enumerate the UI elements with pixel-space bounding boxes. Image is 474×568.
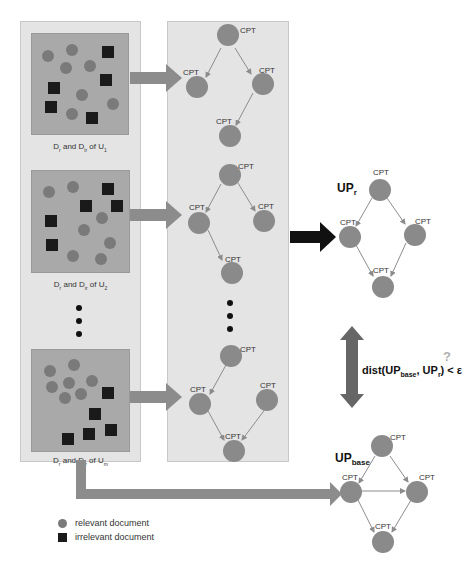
up-r-node bbox=[339, 226, 361, 248]
ellipsis-dot bbox=[227, 313, 233, 319]
graph-node bbox=[253, 210, 275, 232]
cpt-label: CPT bbox=[375, 522, 391, 531]
cpt-label: CPT bbox=[260, 381, 276, 390]
elbow-arrow-to-upbase bbox=[76, 460, 342, 506]
cpt-label: CPT bbox=[342, 473, 358, 482]
up-r-node bbox=[369, 179, 391, 201]
up-r-node bbox=[372, 276, 394, 298]
cpt-label: CPT bbox=[190, 385, 206, 394]
gray-block-arrow-u2 bbox=[130, 201, 182, 229]
graph-node bbox=[220, 345, 242, 367]
legend-relevant: relevant document bbox=[58, 518, 149, 528]
graph-node bbox=[252, 73, 274, 95]
ellipsis-dot bbox=[227, 300, 233, 306]
up-base-label: UPbase bbox=[335, 451, 370, 467]
diagram-connectors bbox=[0, 0, 474, 568]
cpt-label: CPT bbox=[225, 432, 241, 441]
relevant-doc-icon bbox=[58, 519, 67, 528]
legend-irrelevant: irrelevant document bbox=[58, 532, 154, 542]
double-arrow bbox=[340, 326, 364, 408]
gray-block-arrow-u1 bbox=[130, 64, 182, 92]
cpt-label: CPT bbox=[183, 68, 199, 77]
cpt-label: CPT bbox=[258, 202, 274, 211]
up-base-node bbox=[372, 531, 394, 553]
ellipsis-dot bbox=[227, 326, 233, 332]
cpt-label: CPT bbox=[373, 168, 389, 177]
cpt-label: CPT bbox=[240, 345, 256, 354]
irrelevant-doc-icon bbox=[58, 533, 67, 542]
up-r-label: UPr bbox=[337, 181, 357, 197]
graph-node bbox=[223, 440, 245, 462]
up-base-node bbox=[406, 481, 428, 503]
graph-node bbox=[217, 24, 239, 46]
graph-node bbox=[186, 76, 208, 98]
cpt-label: CPT bbox=[259, 66, 275, 75]
cpt-label: CPT bbox=[390, 433, 406, 442]
up-base-node bbox=[340, 481, 362, 503]
graph-node bbox=[221, 262, 243, 284]
cpt-label: CPT bbox=[340, 218, 356, 227]
up-r-node bbox=[404, 224, 426, 246]
cpt-label: CPT bbox=[216, 117, 232, 126]
graph-node bbox=[219, 125, 241, 147]
question-mark: ? bbox=[443, 349, 451, 364]
cpt-label: CPT bbox=[225, 255, 241, 264]
graph-node bbox=[188, 212, 210, 234]
cpt-label: CPT bbox=[419, 473, 435, 482]
graph-node bbox=[189, 393, 211, 415]
distance-condition: dist(UPbase, UPr) < ε bbox=[362, 364, 462, 378]
cpt-label: CPT bbox=[415, 217, 431, 226]
gray-block-arrow-um bbox=[130, 383, 182, 411]
cpt-label: CPT bbox=[373, 266, 389, 275]
cpt-label: CPT bbox=[189, 203, 205, 212]
black-block-arrow bbox=[290, 222, 336, 252]
cpt-label: CPT bbox=[240, 26, 256, 35]
cpt-label: CPT bbox=[238, 162, 254, 171]
graph-node bbox=[256, 389, 278, 411]
